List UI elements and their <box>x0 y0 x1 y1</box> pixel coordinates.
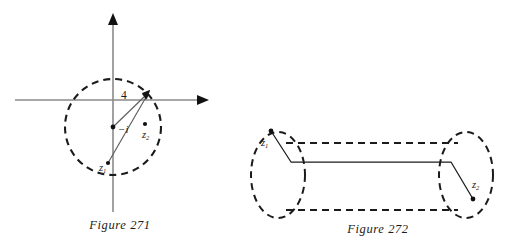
point-z2 <box>471 197 476 202</box>
point-center-minus-i <box>111 125 116 130</box>
label-radius-4: 4 <box>121 90 127 102</box>
imaginary-axis <box>108 13 118 212</box>
real-axis <box>15 95 209 105</box>
caption-figure-271: Figure 271 <box>58 218 182 233</box>
branch-cut-line <box>271 131 473 199</box>
label-z1-figure-271: z1 <box>99 163 106 174</box>
point-z2 <box>143 122 147 126</box>
z1-subscript: 1 <box>265 142 268 149</box>
figure-board: −i 4 z2 z1 Figure 271 z1 z2 Figure 272 <box>0 0 511 246</box>
label-z2-figure-272: z2 <box>472 180 479 191</box>
point-z1 <box>269 129 274 134</box>
label-z1-figure-272: z1 <box>261 138 268 149</box>
caption-figure-272: Figure 272 <box>316 222 440 237</box>
point-z1 <box>106 161 110 165</box>
dashed-loop-around-z1 <box>251 132 305 218</box>
label-minus-i: −i <box>118 124 128 135</box>
z1-subscript: 1 <box>103 167 106 174</box>
z2-subscript: 2 <box>146 134 149 141</box>
dashed-loop-around-z2 <box>439 132 493 218</box>
z2-subscript: 2 <box>476 184 479 191</box>
label-z2-figure-271: z2 <box>142 130 149 141</box>
